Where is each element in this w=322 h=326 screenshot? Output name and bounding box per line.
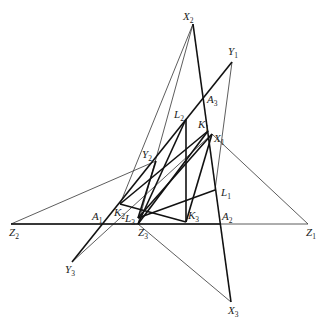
label-a1: A1 xyxy=(91,210,103,225)
label-k3: K3 xyxy=(187,209,199,224)
diagram-svg: X2Y1A3L2K1X1Y2L1K2L3K3A1A2Z2Z3Z1Y3X3 xyxy=(0,0,322,326)
label-z2: Z2 xyxy=(9,226,19,241)
thin-lines xyxy=(11,24,308,302)
label-l1: L1 xyxy=(220,186,231,201)
thick-lines xyxy=(11,24,232,302)
segment-z3-x3 xyxy=(138,224,231,302)
geometry-diagram: X2Y1A3L2K1X1Y2L1K2L3K3A1A2Z2Z3Z1Y3X3 xyxy=(0,0,322,326)
label-x1: X1 xyxy=(213,132,225,147)
label-k1: K1 xyxy=(197,118,209,133)
label-x3: X3 xyxy=(227,304,239,319)
segment-x1-l3 xyxy=(138,134,212,218)
segment-x2-x3 xyxy=(193,24,231,302)
label-a2: A2 xyxy=(221,210,233,225)
label-x2: X2 xyxy=(182,10,194,25)
label-a3: A3 xyxy=(206,93,218,108)
label-l2: L2 xyxy=(173,108,184,123)
segment-y1-y3 xyxy=(72,62,232,262)
label-z3: Z3 xyxy=(138,226,148,241)
label-y1: Y1 xyxy=(228,45,238,60)
label-z1: Z1 xyxy=(306,226,316,241)
point-labels: X2Y1A3L2K1X1Y2L1K2L3K3A1A2Z2Z3Z1Y3X3 xyxy=(9,10,316,319)
label-y3: Y3 xyxy=(65,263,75,278)
label-y2: Y2 xyxy=(142,148,152,163)
